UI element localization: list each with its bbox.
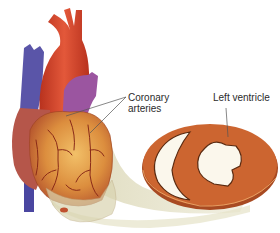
coronary-label-line1: Coronary xyxy=(128,92,169,103)
heart-drawing xyxy=(0,0,280,233)
coronary-arteries-label: Coronary arteries xyxy=(128,92,169,114)
coronary-label-line2: arteries xyxy=(128,103,169,114)
heart-ventricles xyxy=(29,111,112,206)
left-ventricle-label: Left ventricle xyxy=(213,92,270,103)
ventricle-cross-section xyxy=(142,124,278,210)
heart-illustration: Coronary arteries Left ventricle xyxy=(0,0,280,233)
